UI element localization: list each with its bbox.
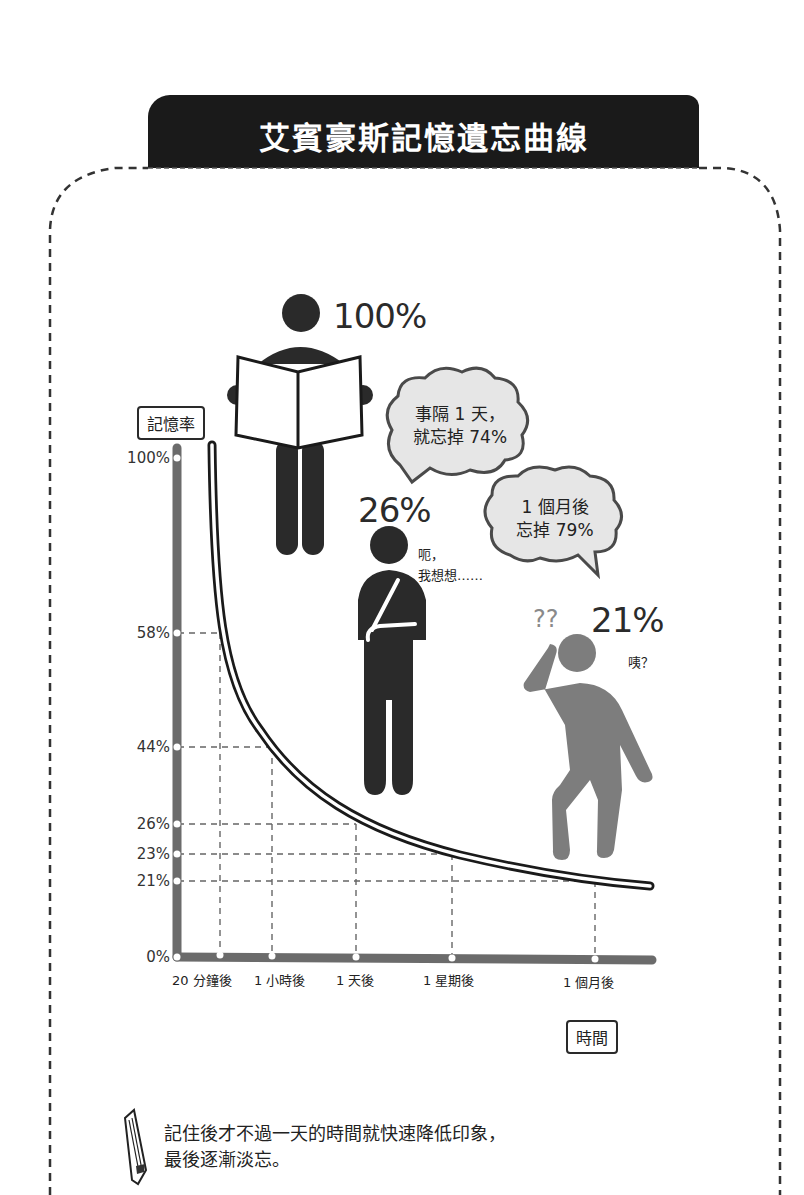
y-tick-44: 44% [110,738,170,756]
pencil-icon [120,1108,152,1188]
y-tick-26: 26% [110,815,170,833]
thinker-percent: 26% [358,490,431,530]
thinker-speech-line1: 呃， [418,545,444,565]
bubble-day-text: 事隔 1 天， 就忘掉 74% [400,403,520,449]
y-axis-label: 記憶率 [137,406,205,440]
chart-canvas [0,0,804,1195]
x-tick-1week: 1 星期後 [423,970,474,989]
thinker-figure-icon [358,526,426,795]
thinker-speech-line2: 我想想…… [418,566,483,586]
y-tick-100: 100% [110,449,170,467]
question-marks: ?? [533,605,558,633]
x-tick-1month: 1 個月後 [563,972,614,991]
x-axis [177,957,652,960]
x-tick-1day: 1 天後 [336,970,374,989]
y-tick-0: 0% [110,948,170,966]
x-axis-label: 時間 [566,1020,618,1054]
bubble-day-line2: 就忘掉 74% [400,426,520,449]
y-tick-58: 58% [110,624,170,642]
bubble-month-line2: 忘掉 79% [495,519,615,542]
bubble-month-line1: 1 個月後 [495,496,615,519]
reader-percent: 100% [333,296,426,336]
caption: 記住後才不過一天的時間就快速降低印象， 最後逐漸淡忘。 [164,1121,506,1173]
caption-line1: 記住後才不過一天的時間就快速降低印象， [164,1121,506,1147]
confused-percent: 21% [591,600,664,640]
x-tick-20min: 20 分鐘後 [172,970,232,989]
confused-speech: 咦？ [628,653,654,673]
y-tick-21: 21% [110,872,170,890]
bubble-day-line1: 事隔 1 天， [400,403,520,426]
y-tick-23: 23% [110,845,170,863]
x-tick-1hour: 1 小時後 [254,970,305,989]
caption-line2: 最後逐漸淡忘。 [164,1147,506,1173]
bubble-month-text: 1 個月後 忘掉 79% [495,496,615,542]
